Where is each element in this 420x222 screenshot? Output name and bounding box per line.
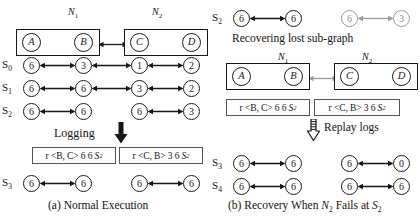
panel-recovery: S2 6 6 6 3 Recovering lost sub-graph N1 … — [210, 0, 420, 222]
state-node-lost: 3 — [393, 10, 410, 27]
log-record-box: r <C, B> 3 6 S2 — [119, 147, 203, 164]
state-node: 6 — [285, 178, 302, 195]
state-node: 3 — [131, 80, 148, 97]
edge-state — [357, 159, 394, 168]
state-node: 6 — [23, 80, 40, 97]
state-node: 6 — [393, 178, 410, 195]
state-node: 6 — [131, 175, 148, 192]
state-node: 6 — [233, 10, 250, 27]
state-node: 6 — [23, 57, 40, 74]
logging-label: Logging — [54, 126, 95, 141]
edge-state — [147, 61, 184, 70]
partition-label-n2: N2 — [152, 6, 162, 20]
state-node: 2 — [183, 57, 200, 74]
edge-state — [147, 179, 184, 188]
edge-state — [249, 182, 286, 191]
state-node: 6 — [341, 155, 358, 172]
state-node: 6 — [341, 178, 358, 195]
state-node: 6 — [285, 155, 302, 172]
panel-normal-execution: N1 N2 A B C D S0 6 3 1 2 — [0, 0, 210, 222]
graph-node-b: B — [284, 67, 303, 86]
state-label-s0: S0 — [2, 58, 12, 73]
state-node: 3 — [183, 103, 200, 120]
edge-state — [249, 14, 286, 23]
graph-node-d: D — [182, 33, 201, 52]
state-node: 1 — [131, 57, 148, 74]
log-record-box: r <B, C> 6 6 S2 — [226, 99, 310, 116]
edge-state — [39, 107, 76, 116]
edge-state — [147, 84, 184, 93]
edge-state — [39, 84, 76, 93]
edge-state — [357, 182, 394, 191]
edge-state — [91, 61, 132, 70]
state-node: 6 — [131, 103, 148, 120]
state-node: 0 — [393, 155, 410, 172]
graph-node-c: C — [340, 67, 359, 86]
state-label-s3: S3 — [2, 176, 12, 191]
state-node: 6 — [75, 80, 92, 97]
state-label-s4-recovery: S4 — [212, 179, 222, 194]
edge-state — [39, 179, 76, 188]
replay-logs-label: Replay logs — [324, 121, 379, 133]
state-node: 3 — [75, 57, 92, 74]
recovering-label: Recovering lost sub-graph — [232, 32, 353, 44]
state-node: 2 — [183, 80, 200, 97]
state-node: 6 — [75, 175, 92, 192]
graph-node-d: D — [392, 67, 411, 86]
edge-state-lost — [357, 14, 394, 23]
state-label-s2-recovery: S2 — [212, 11, 222, 26]
state-label-s3-recovery: S3 — [212, 156, 222, 171]
state-node: 6 — [23, 175, 40, 192]
edge-state — [39, 61, 76, 70]
panel-a-caption: (a) Normal Execution — [48, 199, 148, 211]
replay-arrow-icon — [307, 119, 320, 145]
state-label-s1: S1 — [2, 81, 12, 96]
state-node: 6 — [183, 175, 200, 192]
state-node-lost: 6 — [341, 10, 358, 27]
state-node: 6 — [23, 103, 40, 120]
edge-state — [249, 159, 286, 168]
log-record-box: r <C, B> 3 6 S2 — [314, 99, 400, 116]
state-node: 6 — [75, 103, 92, 120]
state-node: 6 — [233, 178, 250, 195]
state-node: 6 — [285, 10, 302, 27]
graph-node-a: A — [232, 67, 251, 86]
graph-node-b: B — [74, 33, 93, 52]
log-record-box: r <B, C> 6 6 S2 — [32, 147, 116, 164]
graph-node-a: A — [22, 33, 41, 52]
logging-arrow-icon — [114, 122, 128, 148]
partition-label-n1: N1 — [68, 6, 78, 20]
edge-state — [147, 107, 184, 116]
state-node: 6 — [233, 155, 250, 172]
graph-node-c: C — [130, 33, 149, 52]
panel-b-caption: (b) Recovery When N2 Fails at S2 — [228, 199, 382, 214]
state-label-s2: S2 — [2, 104, 12, 119]
edge-state — [91, 84, 132, 93]
